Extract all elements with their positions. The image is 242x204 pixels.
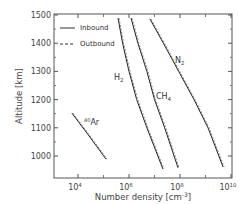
- legend-inbound-label: Inbound: [80, 24, 109, 32]
- x-tick-label: 1010: [219, 182, 237, 192]
- ch4-inbound-curve: [131, 18, 178, 168]
- x-tick-label: 104: [68, 182, 82, 192]
- x-axis-title: Number density [cm-3]: [95, 191, 191, 202]
- n2-label: N2: [175, 56, 184, 66]
- y-tick-label: 1000: [31, 152, 51, 161]
- x-tick-label: 106: [119, 182, 133, 192]
- h2-label: H2: [114, 73, 124, 83]
- legend-outbound-label: Outbound: [80, 40, 115, 48]
- y-tick-label: 1300: [31, 67, 51, 76]
- chart: 100011001200130014001500 1041061081010 H…: [0, 0, 242, 204]
- y-tick-label: 1400: [31, 39, 51, 48]
- plot-frame: [54, 14, 232, 178]
- y-axis-ticks: 100011001200130014001500: [31, 11, 232, 161]
- y-tick-label: 1500: [31, 11, 51, 20]
- y-tick-label: 1200: [31, 96, 51, 105]
- 40ar-label: 40Ar: [84, 117, 100, 127]
- y-tick-label: 1100: [31, 124, 51, 133]
- legend: Inbound Outbound: [60, 24, 115, 48]
- ch4-label: CH4: [156, 92, 172, 102]
- y-axis-title: Altitude [km]: [14, 68, 24, 124]
